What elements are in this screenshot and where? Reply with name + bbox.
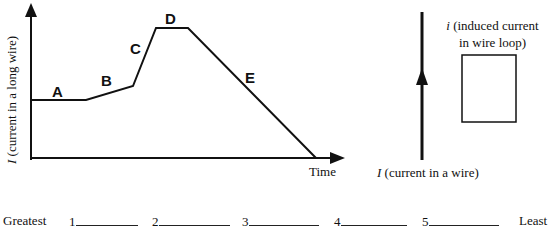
answer-blank[interactable] — [341, 213, 407, 226]
y-axis-symbol: I — [4, 160, 19, 164]
ranking-slot-1[interactable]: 1 — [69, 213, 138, 230]
current-curve — [31, 28, 316, 158]
ranking-slot-2[interactable]: 2 — [152, 213, 230, 230]
ranking-least-label: Least — [519, 213, 547, 229]
ranking-slot-3[interactable]: 3 — [242, 213, 319, 230]
wire-label-description: (current in a wire) — [381, 165, 478, 180]
segment-label-c: C — [130, 40, 141, 57]
loop-label-line2: in wire loop) — [440, 34, 545, 51]
ranking-greatest-label: Greatest — [3, 213, 46, 229]
ranking-slot-4[interactable]: 4 — [334, 213, 407, 230]
wire-loop — [462, 55, 516, 122]
segment-label-e: E — [245, 69, 255, 86]
answer-blank[interactable] — [76, 213, 138, 226]
segment-label-a: A — [52, 83, 63, 100]
x-axis-arrow-icon — [330, 152, 345, 164]
current-direction-arrow-icon — [416, 68, 428, 85]
answer-blank[interactable] — [159, 213, 230, 226]
answer-blank[interactable] — [249, 213, 319, 226]
y-axis-arrow-icon — [25, 3, 37, 17]
loop-label-line1: (induced current — [450, 18, 539, 33]
wire-label: I (current in a wire) — [377, 165, 479, 181]
loop-label: i (induced current in wire loop) — [440, 17, 545, 51]
y-axis-label: I (current in a long wire) — [4, 36, 20, 164]
ranking-slot-5[interactable]: 5 — [422, 213, 499, 230]
segment-label-d: D — [165, 10, 176, 27]
x-axis-label: Time — [309, 164, 336, 180]
y-axis-description: (current in a long wire) — [4, 36, 19, 160]
ranking-row: Greatest 1 2 3 4 5 Least — [0, 213, 552, 233]
answer-blank[interactable] — [429, 213, 499, 226]
segment-label-b: B — [101, 72, 112, 89]
